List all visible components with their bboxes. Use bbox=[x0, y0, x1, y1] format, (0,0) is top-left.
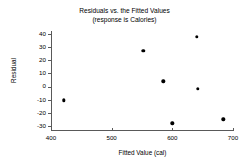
y-tick-mark bbox=[48, 100, 51, 101]
data-point bbox=[222, 118, 225, 121]
y-axis-line bbox=[51, 31, 52, 131]
y-axis-label: Residual bbox=[10, 49, 17, 93]
y-tick-label: 0 bbox=[24, 83, 46, 89]
y-tick-mark bbox=[48, 113, 51, 114]
y-tick-label: -20 bbox=[24, 110, 46, 116]
x-tick-label: 500 bbox=[100, 135, 124, 141]
x-tick-label: 400 bbox=[39, 135, 63, 141]
y-tick-mark bbox=[48, 47, 51, 48]
y-tick-label: -10 bbox=[24, 97, 46, 103]
x-tick-mark bbox=[112, 128, 113, 131]
x-axis-label: Fitted Value (cal) bbox=[51, 149, 234, 156]
chart-page: Residuals vs. the Fitted Values (respons… bbox=[0, 0, 249, 165]
plot-area: 403020100-10-20-30 400500600700 Fitted V… bbox=[0, 0, 249, 165]
x-axis-line bbox=[51, 130, 234, 131]
data-point bbox=[196, 87, 199, 90]
data-point bbox=[142, 49, 145, 52]
y-tick-label: 20 bbox=[24, 57, 46, 63]
x-tick-mark bbox=[172, 128, 173, 131]
data-point bbox=[171, 122, 174, 125]
x-tick-label: 700 bbox=[221, 135, 245, 141]
y-tick-label: 10 bbox=[24, 70, 46, 76]
x-tick-label: 600 bbox=[160, 135, 184, 141]
data-point bbox=[162, 80, 165, 83]
y-tick-mark bbox=[48, 34, 51, 35]
y-tick-label: -30 bbox=[24, 123, 46, 129]
x-tick-mark bbox=[233, 128, 234, 131]
y-tick-label: 40 bbox=[24, 31, 46, 37]
y-tick-mark bbox=[48, 87, 51, 88]
data-point bbox=[195, 35, 198, 38]
x-tick-mark bbox=[51, 128, 52, 131]
data-point bbox=[62, 99, 65, 102]
y-tick-mark bbox=[48, 126, 51, 127]
y-tick-label: 30 bbox=[24, 44, 46, 50]
y-tick-mark bbox=[48, 60, 51, 61]
y-tick-mark bbox=[48, 73, 51, 74]
